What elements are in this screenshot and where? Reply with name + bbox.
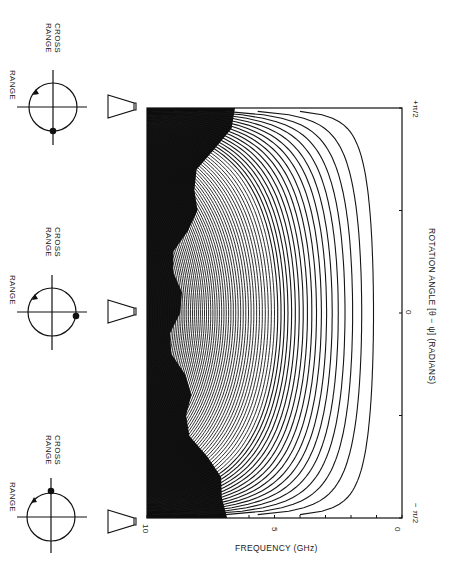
angle-tick-minus-pi-2: − π/2: [411, 503, 420, 524]
antenna-icon: [108, 95, 136, 118]
contour-curves: [134, 108, 373, 518]
range-label: RANGE: [8, 70, 17, 100]
freq-tick-0: 0: [393, 527, 402, 532]
cross-range-label-line2: RANGE: [44, 23, 53, 53]
freq-tick-10: 10: [141, 524, 150, 534]
freq-tick-5: 5: [270, 527, 279, 532]
scatterer-dot: [73, 313, 80, 320]
diagram-zero: [17, 275, 87, 350]
antenna-icon: [108, 510, 136, 533]
frequency-axis-title: FREQUENCY (GHz): [235, 544, 318, 553]
scatterer-dot: [48, 488, 55, 495]
range-label: RANGE: [8, 482, 17, 512]
angle-axis-title: ROTATION ANGLE [θ − ψ] (RADIANS): [427, 228, 436, 384]
cross-range-label-line1: CROSS: [53, 227, 62, 257]
antenna-icon: [108, 300, 136, 323]
cross-range-label-line1: CROSS: [53, 23, 62, 53]
range-label: RANGE: [8, 275, 17, 305]
contour-plot: [0, 0, 455, 581]
cross-range-label-line2: RANGE: [44, 435, 53, 465]
scatterer-dot: [50, 128, 57, 135]
cross-range-label-line2: RANGE: [44, 227, 53, 257]
cross-range-label-line1: CROSS: [53, 435, 62, 465]
angle-tick-zero: 0: [404, 310, 413, 315]
diagram-minus-pi-2: [17, 478, 87, 553]
angle-tick-plus-pi-2: +π/2: [411, 100, 420, 118]
diagram-plus-pi-2: [17, 70, 87, 145]
